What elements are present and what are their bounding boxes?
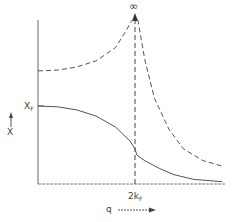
chart-canvas [0, 0, 232, 222]
y-axis-label: X [7, 128, 13, 137]
x-tick-main: 2k [128, 191, 139, 201]
infinity-label: ∞ [129, 1, 138, 12]
x-tick-label-2kf: 2kF [128, 192, 142, 202]
series-dashed-curve [38, 20, 222, 166]
y-tick-sub: F [30, 105, 33, 112]
y-arrow-head [9, 112, 13, 118]
x-tick-sub: F [139, 195, 142, 202]
x-axis-label: q [106, 205, 112, 214]
q-arrow-head [149, 208, 156, 213]
series-solid-curve [38, 106, 222, 182]
y-tick-label-xf: XF [24, 102, 34, 112]
